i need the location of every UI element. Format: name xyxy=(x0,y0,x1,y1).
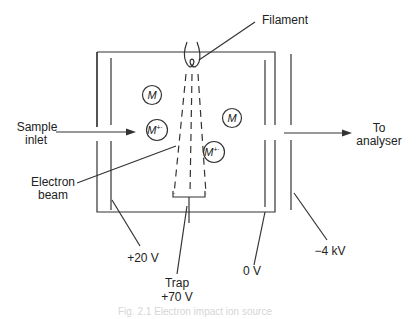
filament-icon xyxy=(184,42,200,67)
repeller-voltage-label: +20 V xyxy=(127,251,159,265)
trap-electrode xyxy=(173,191,205,197)
trap-leader xyxy=(177,206,187,274)
sample-inlet-label-1: Sample xyxy=(17,120,58,134)
electron-beam-label-1: Electron xyxy=(31,175,75,189)
svg-text:M+·: M+· xyxy=(147,124,163,136)
ion-m-plus-2: M+· xyxy=(204,142,225,163)
trap-label-1: Trap xyxy=(165,276,190,290)
filament-leader xyxy=(199,22,255,60)
inlet-opening xyxy=(95,127,99,141)
electron-beam xyxy=(174,74,206,194)
filament-label: Filament xyxy=(262,13,309,27)
electron-beam-leader xyxy=(77,146,176,183)
ion-m-plus-1: M+· xyxy=(147,120,168,141)
svg-text:M+·: M+· xyxy=(204,146,220,158)
focus-leader xyxy=(294,193,327,240)
molecule-m-1: M xyxy=(143,86,162,105)
electron-beam-label-2: beam xyxy=(38,188,68,202)
ion-source-diagram: M M+· M M+· Filament Sample inlet Electr… xyxy=(0,0,417,319)
accelerator-leader xyxy=(254,212,265,265)
repeller-leader xyxy=(112,200,140,246)
analyser-arrowhead xyxy=(342,130,352,137)
svg-text:M: M xyxy=(147,89,157,101)
trap-voltage-label: +70 V xyxy=(161,290,193,304)
to-analyser-label-1: To xyxy=(373,121,386,135)
molecule-m-2: M xyxy=(223,109,242,128)
svg-text:M: M xyxy=(227,112,237,124)
figure-caption: Fig. 2.1 Electron impact ion source xyxy=(118,306,272,317)
focus-voltage-label: −4 kV xyxy=(314,244,345,258)
sample-inlet-label-2: inlet xyxy=(25,133,48,147)
to-analyser-label-2: analyser xyxy=(356,134,401,148)
sample-inlet-arrowhead xyxy=(126,129,136,136)
accelerator-voltage-label: 0 V xyxy=(243,264,261,278)
